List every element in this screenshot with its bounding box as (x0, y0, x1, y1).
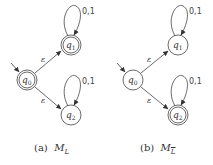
transition-label: ε (147, 55, 151, 64)
state-q0: q0 (17, 70, 37, 90)
transition-label: ε (147, 96, 151, 105)
transition-label: 0,1 (82, 7, 95, 16)
self-loop-q2 (64, 75, 80, 106)
caption-b: (b) ML (140, 142, 175, 156)
transition-q0-q1 (35, 51, 61, 73)
caption-sub: L (64, 148, 69, 156)
transition-label: 0,1 (189, 77, 202, 86)
initial-arrow (11, 63, 19, 72)
transition-label: 0,1 (189, 7, 202, 16)
transition-label: 0,1 (82, 77, 95, 86)
state-label: q0 (22, 75, 32, 86)
state-q2: q2 (168, 105, 188, 125)
caption-a: (a) ML (34, 142, 69, 156)
state-label: q1 (66, 40, 76, 51)
state-label: q1 (173, 40, 183, 51)
transition-q0-q2 (141, 87, 168, 109)
initial-arrow (117, 63, 125, 72)
caption-name: M (161, 142, 171, 153)
caption-sub: L (171, 148, 176, 156)
state-label: q2 (66, 110, 76, 121)
state-q2: q2 (61, 105, 81, 125)
transition-label: ε (41, 55, 45, 64)
transition-label: ε (41, 96, 45, 105)
automaton-ML-complement: q0 q1 q2 ε ε 0,1 0,1 (117, 5, 202, 125)
automaton-ML: q0 q1 q2 ε ε 0,1 0,1 (11, 5, 95, 125)
state-label: q0 (128, 75, 138, 86)
self-loop-q2 (171, 75, 187, 106)
caption-prefix: (b) (140, 142, 154, 153)
state-q1: q1 (168, 35, 188, 55)
caption-name: M (54, 142, 64, 153)
transition-q0-q2 (35, 87, 61, 109)
self-loop-q1 (171, 5, 187, 36)
state-q0: q0 (123, 70, 143, 90)
state-q1: q1 (61, 35, 81, 55)
caption-prefix: (a) (34, 142, 48, 153)
state-label: q2 (173, 110, 183, 121)
transition-q0-q1 (141, 51, 168, 73)
self-loop-q1 (64, 5, 80, 36)
automata-diagram: q0 q1 q2 ε ε 0,1 0,1 (0, 0, 213, 165)
